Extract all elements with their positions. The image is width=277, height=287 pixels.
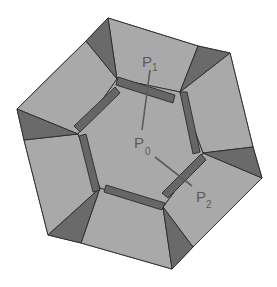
- svg-text:P: P: [196, 188, 206, 205]
- svg-text:0: 0: [145, 146, 151, 157]
- svg-text:P: P: [134, 134, 144, 151]
- svg-text:P: P: [142, 53, 152, 70]
- polyhedron-diagram: P 1 P 0 P 2: [0, 0, 277, 287]
- svg-text:1: 1: [152, 62, 158, 73]
- svg-text:2: 2: [206, 199, 212, 210]
